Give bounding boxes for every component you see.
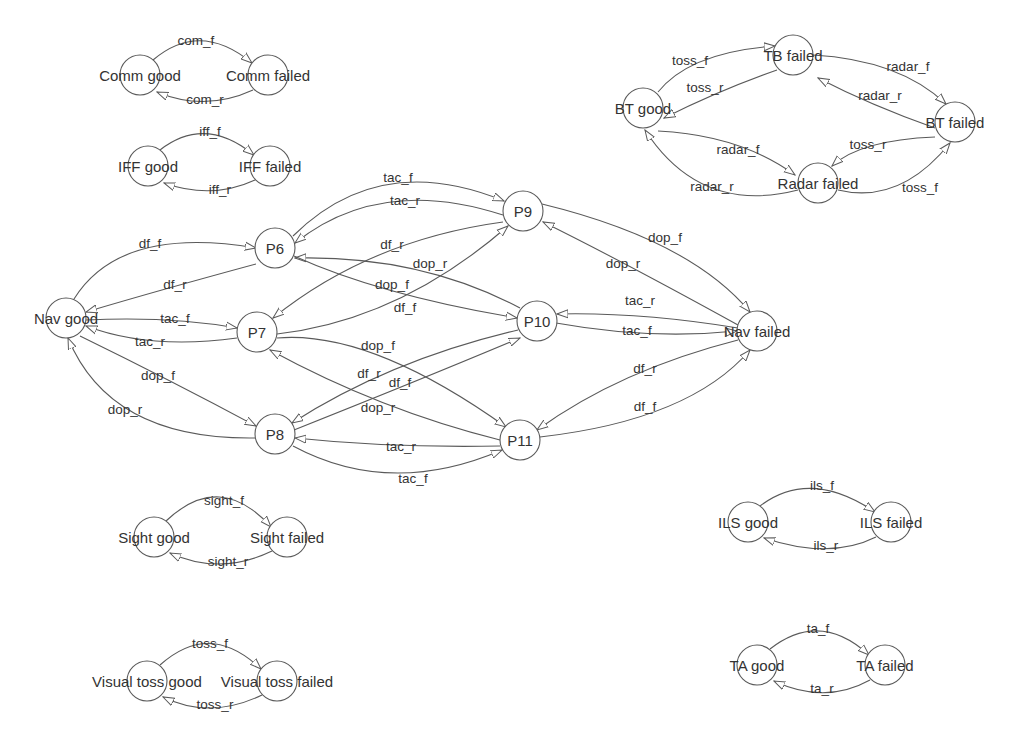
edge-label: dop_r <box>361 400 396 415</box>
edge-label: dop_f <box>141 368 175 383</box>
state-node-p6: P6 <box>255 228 295 268</box>
state-node-bt_good: BT good <box>615 88 671 128</box>
state-label: TA failed <box>856 657 913 674</box>
edge-label: toss_r <box>850 137 887 152</box>
state-node-vt_good: Visual toss good <box>92 661 202 701</box>
edge-label: df_r <box>163 277 187 292</box>
state-label: Nav good <box>34 310 98 327</box>
state-node-sight_good: Sight good <box>118 517 190 557</box>
edge-label: toss_f <box>902 180 938 195</box>
state-label: P6 <box>266 240 284 257</box>
state-label: BT failed <box>926 114 985 131</box>
state-node-iff_failed: IFF failed <box>239 146 302 186</box>
edge-label: iff_r <box>209 182 232 197</box>
edges-layer <box>68 41 950 708</box>
edge-label: toss_f <box>192 636 228 651</box>
edge-labels-layer: com_fcom_riff_fiff_rtoss_ftoss_rradar_fr… <box>108 33 939 712</box>
edge-label: df_f <box>394 300 417 315</box>
state-label: P11 <box>507 432 533 449</box>
state-label: Visual toss failed <box>221 673 333 690</box>
edge-label: df_r <box>357 366 381 381</box>
edge-label: df_r <box>380 237 404 252</box>
state-label: Visual toss good <box>92 673 202 690</box>
state-label: IFF good <box>118 158 178 175</box>
edge-label: tac_r <box>625 293 656 308</box>
state-label: IFF failed <box>239 158 302 175</box>
edge-label: sight_r <box>208 554 249 569</box>
state-label: Comm good <box>99 67 181 84</box>
edge-label: ils_f <box>810 478 834 493</box>
state-node-ils_good: ILS good <box>718 502 778 542</box>
edge-label: toss_f <box>672 53 708 68</box>
edge-label: dop_r <box>606 256 641 271</box>
edge-label: radar_r <box>858 88 902 103</box>
edge-p6-to-p9 <box>293 182 504 236</box>
edge-label: tac_f <box>383 170 413 185</box>
edge-label: tac_f <box>398 471 428 486</box>
edge-label: tac_f <box>160 311 190 326</box>
edge-label: tac_r <box>390 193 421 208</box>
state-node-bt_failed: BT failed <box>926 102 985 142</box>
edge-label: ta_r <box>810 681 834 696</box>
edge-p8-to-nav_good <box>68 338 255 438</box>
edge-label: com_f <box>178 33 215 48</box>
edge-label: toss_r <box>687 80 724 95</box>
state-label: P7 <box>248 324 266 341</box>
edge-label: toss_r <box>197 697 234 712</box>
state-label: TB failed <box>763 47 822 64</box>
state-node-ta_good: TA good <box>730 645 785 685</box>
edge-label: dop_r <box>108 402 143 417</box>
state-node-nav_good: Nav good <box>34 298 98 338</box>
nodes-layer: Comm goodComm failedIFF goodIFF failedBT… <box>34 35 985 701</box>
edge-label: dop_f <box>361 338 395 353</box>
edge-label: df_f <box>139 236 162 251</box>
state-label: TA good <box>730 657 785 674</box>
edge-label: tac_f <box>622 323 652 338</box>
edge-label: sight_f <box>204 493 244 508</box>
state-node-p9: P9 <box>503 191 543 231</box>
state-node-vt_failed: Visual toss failed <box>221 661 333 701</box>
state-label: P10 <box>524 313 551 330</box>
edge-label: tac_r <box>135 334 166 349</box>
state-label: ILS good <box>718 514 778 531</box>
edge-label: com_r <box>186 92 224 107</box>
state-node-nav_failed: Nav failed <box>724 311 791 351</box>
state-label: Comm failed <box>226 67 310 84</box>
state-label: P9 <box>514 203 532 220</box>
edge-label: df_f <box>634 399 657 414</box>
state-node-comm_failed: Comm failed <box>226 55 310 95</box>
edge-label: df_f <box>389 375 412 390</box>
state-label: ILS failed <box>860 514 923 531</box>
edge-label: iff_f <box>199 124 221 139</box>
edge-label: radar_f <box>717 142 760 157</box>
state-node-sight_failed: Sight failed <box>250 517 324 557</box>
state-label: P8 <box>266 426 284 443</box>
state-label: BT good <box>615 100 671 117</box>
edge-label: df_r <box>633 361 657 376</box>
edge-bt_failed-to-tb_failed <box>818 78 935 128</box>
edge-label: radar_f <box>887 59 930 74</box>
edge-nav_failed-to-p11 <box>537 340 738 430</box>
state-transition-diagram: Comm goodComm failedIFF goodIFF failedBT… <box>0 0 1015 741</box>
edge-label: ils_r <box>814 538 839 553</box>
state-node-radar_failed: Radar failed <box>778 163 859 203</box>
state-node-p11: P11 <box>500 420 540 460</box>
edge-label: radar_r <box>690 179 734 194</box>
state-label: Sight failed <box>250 529 324 546</box>
state-node-iff_good: IFF good <box>118 146 178 186</box>
edge-label: dop_r <box>413 256 448 271</box>
edge-label: ta_f <box>807 621 830 636</box>
edge-label: dop_f <box>648 230 682 245</box>
state-label: Sight good <box>118 529 190 546</box>
state-node-p7: P7 <box>237 312 277 352</box>
state-node-tb_failed: TB failed <box>763 35 822 75</box>
state-node-comm_good: Comm good <box>99 55 181 95</box>
state-label: Nav failed <box>724 323 791 340</box>
state-label: Radar failed <box>778 175 859 192</box>
edge-label: dop_f <box>375 277 409 292</box>
edge-p11-to-p7 <box>270 350 500 440</box>
state-node-p8: P8 <box>255 414 295 454</box>
edge-label: tac_r <box>386 439 417 454</box>
state-node-p10: P10 <box>517 301 557 341</box>
